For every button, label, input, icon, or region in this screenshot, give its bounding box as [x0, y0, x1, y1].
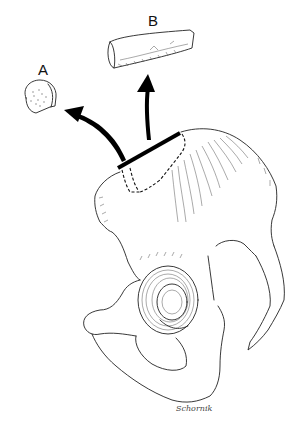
- graft-b-label: B: [148, 13, 158, 28]
- acetabulum-region: [84, 252, 225, 402]
- iliac-wing: [95, 129, 277, 280]
- artist-signature: Schornik: [176, 404, 212, 413]
- graft-b-shape: [108, 30, 194, 68]
- arrow-to-graft-a-icon: [64, 106, 126, 162]
- bone-graft-illustration: A B Schornik: [0, 0, 304, 434]
- posterior-ilium: [208, 240, 284, 350]
- graft-a-shape: [25, 80, 56, 113]
- graft-a-label: A: [38, 62, 48, 77]
- arrow-to-graft-b-icon: [137, 74, 155, 140]
